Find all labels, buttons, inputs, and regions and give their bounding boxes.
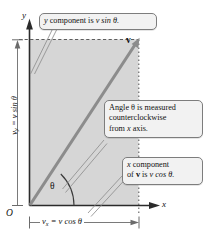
callout-angle-line2: counterclockwise bbox=[109, 113, 166, 122]
y-component-dimension-label: vy = v sin θ bbox=[9, 75, 20, 155]
callout-angle-line3-post: axis. bbox=[131, 124, 148, 133]
callout-x-line2-pre: of bbox=[127, 170, 136, 179]
x-component-dimension-label: vx = v cos θ bbox=[40, 216, 84, 227]
callout-y-component: y component is v sin θ. bbox=[39, 13, 157, 30]
angle-theta-label: θ bbox=[50, 181, 55, 191]
callout-angle-line3-pre: from bbox=[109, 124, 127, 133]
callout-y-expression: v sin θ. bbox=[96, 16, 119, 25]
vy-equals: = bbox=[9, 118, 19, 128]
callout-x-expression: v cos θ. bbox=[150, 170, 175, 179]
vy-symbol: v bbox=[9, 131, 19, 135]
vx-expression: v cos θ bbox=[59, 216, 83, 226]
callout-x-line1-post: component bbox=[131, 160, 169, 169]
vx-equals: = bbox=[49, 216, 59, 226]
origin-label: O bbox=[6, 208, 13, 218]
callout-angle-line1: Angle θ is measured bbox=[109, 103, 176, 112]
figure-canvas: y x O v θ vy = v sin θ vx = v cos θ y co… bbox=[0, 0, 207, 238]
x-axis-arrowhead bbox=[149, 202, 160, 209]
vy-expression: v sin θ bbox=[9, 96, 19, 118]
y-axis-label: y bbox=[22, 10, 26, 20]
callout-x-component: x component of v is v cos θ. bbox=[122, 157, 203, 185]
y-axis-arrowhead bbox=[26, 19, 33, 30]
callout-y-text: component is bbox=[48, 16, 96, 25]
callout-angle: Angle θ is measured counterclockwise fro… bbox=[104, 100, 203, 138]
callout-x-line2-mid: is bbox=[140, 170, 150, 179]
x-axis-label: x bbox=[162, 199, 166, 209]
x-dimension-arrowhead bbox=[131, 220, 140, 226]
vector-v-label: v bbox=[126, 35, 131, 45]
vy-subscript: y bbox=[13, 128, 19, 131]
y-dimension-arrowhead bbox=[15, 40, 21, 49]
